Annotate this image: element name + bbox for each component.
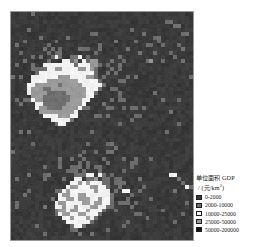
legend-item: 2000-10000 xyxy=(196,202,254,210)
legend-swatch xyxy=(196,203,202,208)
legend-title-line2: / (元/km2) xyxy=(196,182,254,192)
legend-swatch xyxy=(196,195,202,200)
legend-swatch xyxy=(196,219,202,224)
legend-swatch xyxy=(196,211,202,216)
legend-label: 0-2000 xyxy=(205,194,221,200)
legend-label: 25000-50000 xyxy=(205,219,236,225)
legend-item: 0-2000 xyxy=(196,193,254,201)
legend-unit-suffix: ) xyxy=(222,184,224,191)
legend-label: 50000-200000 xyxy=(205,227,239,233)
legend: 单位面积 GDP / (元/km2) 0-20002000-1000010000… xyxy=(196,174,254,234)
legend-item: 50000-200000 xyxy=(196,226,254,234)
legend-swatch xyxy=(196,227,202,232)
legend-label: 10000-25000 xyxy=(205,211,236,217)
legend-item: 10000-25000 xyxy=(196,210,254,218)
legend-label: 2000-10000 xyxy=(205,202,233,208)
figure-root: 单位面积 GDP / (元/km2) 0-20002000-1000010000… xyxy=(0,0,254,247)
legend-items: 0-20002000-1000010000-2500025000-5000050… xyxy=(196,193,254,233)
legend-item: 25000-50000 xyxy=(196,218,254,226)
legend-title-line1: 单位面积 GDP xyxy=(196,174,254,182)
legend-unit-prefix: / (元/km xyxy=(198,184,220,191)
map-panel xyxy=(10,11,194,241)
gdp-density-raster-map xyxy=(11,12,193,240)
